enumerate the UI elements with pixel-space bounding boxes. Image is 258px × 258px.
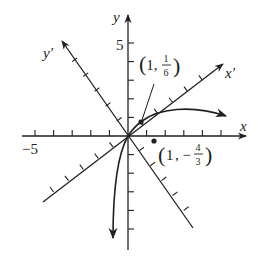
y-axis-label: y: [111, 9, 120, 25]
tick-mark: [80, 165, 84, 170]
tick-mark: [161, 177, 166, 181]
tick-mark: [169, 98, 173, 103]
fraction-den: 6: [164, 67, 169, 78]
tick-mark: [173, 192, 178, 196]
tick-mark: [184, 207, 189, 211]
rotated-axes-figure: y x y′ x′ −5 5 (1, 1 6 ) ( 1 , − 4 3 ): [0, 0, 258, 258]
tick-mark: [139, 147, 144, 151]
label-close: ): [205, 142, 212, 167]
tick-mark: [95, 154, 99, 159]
x-prime-axis-label: x′: [224, 65, 236, 81]
tick-mark: [184, 87, 188, 92]
tick-mark: [199, 75, 203, 80]
svg-text:, −: , −: [175, 147, 191, 163]
tick-mark: [110, 142, 114, 147]
point-label-1-neg-4-3: ( 1 , − 4 3 ): [158, 142, 212, 167]
x-tick-label-neg5: −5: [22, 141, 38, 157]
y-prime-axis-label: y′: [41, 45, 54, 61]
fraction-num: 1: [164, 53, 169, 64]
tick-mark: [150, 162, 155, 166]
tick-mark: [65, 176, 69, 181]
svg-text:(: (: [158, 142, 165, 167]
point-1-neg-4-3: [151, 138, 156, 143]
x-axis-label: x: [239, 118, 247, 134]
x-prime-axis: [43, 64, 223, 202]
label-x: 1: [166, 147, 174, 163]
fraction-num: 4: [196, 142, 201, 153]
tick-mark: [50, 187, 54, 192]
y-tick-label-5: 5: [116, 37, 124, 53]
point-1-1-6: [138, 119, 143, 124]
point-label-1-1-6: (1, 1 6 ): [139, 51, 180, 78]
label-open: (1,: [139, 51, 158, 76]
label-close: ): [173, 53, 180, 78]
fraction-den: 3: [196, 156, 201, 167]
